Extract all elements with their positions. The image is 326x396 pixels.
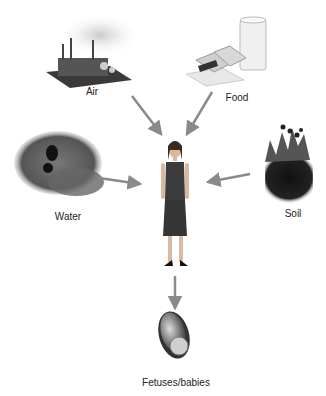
label-fetuses-babies: Fetuses/babies — [132, 377, 220, 388]
label-air: Air — [80, 86, 104, 97]
label-soil: Soil — [278, 208, 308, 219]
soil-plants-icon — [265, 125, 313, 205]
arrow-water-to-person — [99, 178, 140, 184]
arrow-air-to-person — [132, 96, 161, 134]
factory-icon — [46, 13, 142, 88]
person-figure — [161, 141, 189, 266]
fetus-icon — [153, 308, 194, 362]
sandwich-milk-icon — [186, 17, 266, 86]
diagram-canvas — [0, 0, 326, 396]
arrow-food-to-person — [187, 92, 212, 134]
label-water: Water — [48, 211, 88, 222]
label-food: Food — [222, 92, 252, 103]
arrow-soil-to-person — [208, 174, 250, 182]
drain-pipe-icon — [14, 131, 104, 196]
